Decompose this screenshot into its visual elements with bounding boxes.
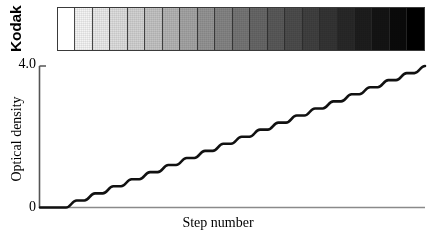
kodak-brand-label: Kodak [6, 6, 26, 52]
wedge-step-dither [75, 8, 91, 50]
wedge-step-dither [128, 8, 144, 50]
wedge-step-dither [355, 8, 371, 50]
wedge-step-dither [215, 8, 231, 50]
wedge-step [338, 8, 355, 50]
wedge-step [75, 8, 92, 50]
wedge-step-dither [110, 8, 126, 50]
plot-area: 4.0 0 Optical density Step number [0, 57, 436, 242]
wedge-step-dither [268, 8, 284, 50]
wedge-step-dither [93, 8, 109, 50]
wedge-step [250, 8, 267, 50]
wedge-step-dither [198, 8, 214, 50]
axes-and-curve [0, 57, 436, 242]
wedge-step [390, 8, 407, 50]
wedge-step-dither [390, 8, 406, 50]
wedge-step [198, 8, 215, 50]
wedge-step [180, 8, 197, 50]
wedge-step [128, 8, 145, 50]
wedge-step-dither [250, 8, 266, 50]
wedge-step-dither [338, 8, 354, 50]
wedge-step [303, 8, 320, 50]
wedge-step-dither [163, 8, 179, 50]
wedge-step [58, 8, 75, 50]
wedge-step-dither [233, 8, 249, 50]
kodak-step-wedge: Kodak [0, 0, 436, 57]
y-axis-spine [40, 66, 47, 208]
figure-root: Kodak 4.0 0 Optical density Step number [0, 0, 436, 242]
wedge-step [233, 8, 250, 50]
wedge-step [93, 8, 110, 50]
wedge-step [320, 8, 337, 50]
wedge-step-dither [145, 8, 161, 50]
wedge-step-dither [372, 8, 388, 50]
density-curve [40, 66, 425, 208]
wedge-step-dither [180, 8, 196, 50]
wedge-step [355, 8, 372, 50]
wedge-step-dither [320, 8, 336, 50]
wedge-step [145, 8, 162, 50]
wedge-step [285, 8, 302, 50]
wedge-step [215, 8, 232, 50]
wedge-step [163, 8, 180, 50]
wedge-step-dither [303, 8, 319, 50]
wedge-step-dither [285, 8, 301, 50]
kodak-brand-text: Kodak [8, 6, 24, 52]
wedge-step [372, 8, 389, 50]
wedge-step [268, 8, 285, 50]
wedge-strip [57, 7, 425, 51]
wedge-step [110, 8, 127, 50]
wedge-step [407, 8, 423, 50]
